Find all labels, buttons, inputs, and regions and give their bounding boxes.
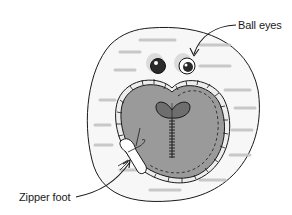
left-eye (151, 59, 166, 74)
illustration (0, 0, 292, 215)
zipper-foot-label: Zipper foot (19, 192, 70, 203)
ball-eyes-label: Ball eyes (238, 20, 282, 31)
